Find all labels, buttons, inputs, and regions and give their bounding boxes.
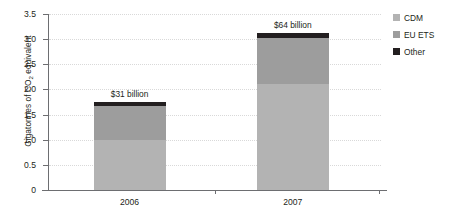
bar-value-label-2006: $31 billion — [111, 89, 149, 99]
legend: CDM EU ETS Other — [393, 9, 451, 60]
y-axis-tick: 3.5 — [43, 14, 48, 15]
legend-label-eu-ets: EU ETS — [404, 30, 434, 40]
legend-item-cdm: CDM — [393, 9, 451, 26]
y-axis-tick-label: 2.0 — [24, 84, 36, 94]
bar-segment-other — [257, 33, 329, 38]
legend-label-other: Other — [404, 47, 425, 57]
y-axis-tick-label: 1.0 — [24, 135, 36, 145]
y-axis-tick: 0.5 — [43, 165, 48, 166]
y-axis-tick-label: 0 — [31, 185, 36, 195]
y-axis-tick: 2.0 — [43, 89, 48, 90]
bar-2006: $31 billion — [94, 14, 166, 190]
y-axis-tick: 2.5 — [43, 64, 48, 65]
bar-segment-eu-ets — [94, 106, 166, 140]
bar-segment-cdm — [94, 140, 166, 190]
x-axis-label-2007: 2007 — [283, 197, 302, 207]
legend-swatch-other — [393, 48, 400, 55]
y-axis-tick: 3.0 — [43, 39, 48, 40]
y-axis-line — [48, 14, 49, 190]
bar-2007: $64 billion — [257, 14, 329, 190]
stacked-bar-chart: Gigatonnes of CO2 equivalent 00.51.01.52… — [0, 0, 451, 213]
bar-segment-other — [94, 102, 166, 106]
legend-item-eu-ets: EU ETS — [393, 26, 451, 43]
y-axis-tick-label: 3.5 — [24, 9, 36, 19]
y-axis-tick-label: 3.0 — [24, 34, 36, 44]
legend-swatch-cdm — [393, 14, 400, 21]
legend-item-other: Other — [393, 43, 451, 60]
y-axis-title-subscript: 2 — [27, 76, 34, 80]
bar-segment-eu-ets — [257, 38, 329, 85]
x-axis-minor-tick — [379, 190, 380, 194]
bar-segment-cdm — [257, 84, 329, 190]
plot-area: 00.51.01.52.02.53.03.5 $31 billion$64 bi… — [48, 14, 381, 190]
bar-value-label-2007: $64 billion — [274, 20, 312, 30]
x-axis-label-2006: 2006 — [120, 197, 139, 207]
legend-swatch-eu-ets — [393, 31, 400, 38]
y-axis-tick-label: 1.5 — [24, 110, 36, 120]
y-axis-tick-label: 2.5 — [24, 59, 36, 69]
legend-label-cdm: CDM — [404, 13, 423, 23]
x-axis-minor-tick — [215, 190, 216, 194]
y-axis-tick-label: 0.5 — [24, 160, 36, 170]
y-axis-tick: 1.5 — [43, 115, 48, 116]
y-axis-tick: 1.0 — [43, 140, 48, 141]
y-axis-tick: 0 — [43, 190, 48, 191]
